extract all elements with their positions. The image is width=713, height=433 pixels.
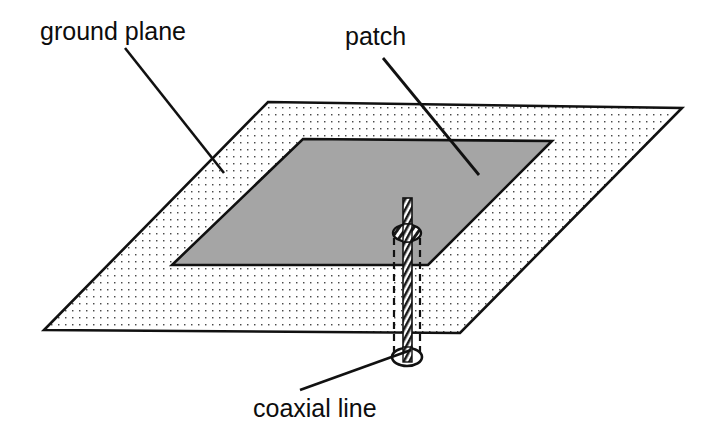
diagram-canvas: ground plane patch coaxial line xyxy=(0,0,713,433)
ground-plane-leader-line xyxy=(125,48,224,173)
antenna-diagram-figure: ground plane patch coaxial line xyxy=(0,0,713,433)
coax-inner-conductor-through-disc xyxy=(403,224,412,242)
ground-plane-label: ground plane xyxy=(40,17,186,45)
coax-top-disc-group xyxy=(393,224,421,242)
coax-inner-conductor xyxy=(403,198,412,362)
patch-label: patch xyxy=(345,22,406,50)
coaxial-line-label: coaxial line xyxy=(253,394,377,422)
coaxial-line-leader-line xyxy=(300,350,411,390)
coax-inner-conductor-group xyxy=(403,198,412,362)
